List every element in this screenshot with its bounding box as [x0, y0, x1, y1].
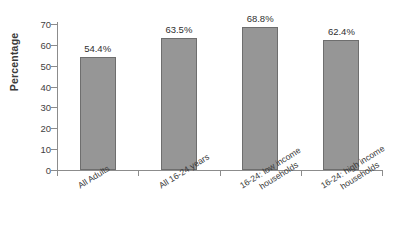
y-axis-tick-label: 0	[5, 166, 51, 176]
y-axis-tick: 10	[0, 149, 51, 150]
y-axis-tick-mark	[51, 66, 57, 67]
bar	[242, 27, 278, 170]
bar-value-label: 68.8%	[230, 14, 290, 24]
y-axis-tick-label: 40	[5, 83, 51, 93]
y-axis-tick: 60	[0, 45, 51, 46]
bar-value-label: 63.5%	[149, 25, 209, 35]
y-axis-tick: 50	[0, 66, 51, 67]
y-axis-tick-label: 50	[5, 62, 51, 72]
bar	[323, 40, 359, 170]
y-axis-tick-mark	[51, 149, 57, 150]
x-axis-tick-mark	[138, 170, 139, 176]
bar-value-label: 62.4%	[311, 27, 371, 37]
bar-value-label: 54.4%	[68, 44, 128, 54]
y-axis-tick-label: 30	[5, 103, 51, 113]
y-axis-tick-mark	[51, 24, 57, 25]
y-axis-tick: 70	[0, 24, 51, 25]
y-axis-tick-mark	[51, 107, 57, 108]
y-axis-tick: 0	[0, 170, 51, 171]
x-axis-tick-mark	[382, 170, 383, 176]
y-axis-tick-mark	[51, 87, 57, 88]
bar	[161, 38, 197, 170]
bar	[80, 57, 116, 170]
y-axis-tick-mark	[51, 128, 57, 129]
y-axis-tick-label: 60	[5, 41, 51, 51]
bar-chart: Percentage 706050403020100 54.4%63.5%68.…	[0, 0, 396, 237]
y-axis-tick: 40	[0, 87, 51, 88]
y-axis-tick-label: 20	[5, 124, 51, 134]
x-axis-tick-mark	[57, 170, 58, 176]
y-axis-tick: 30	[0, 107, 51, 108]
x-axis-tick-mark	[301, 170, 302, 176]
y-axis-line	[57, 22, 58, 171]
x-axis-tick-mark	[220, 170, 221, 176]
y-axis-tick: 20	[0, 128, 51, 129]
y-axis-tick-label: 10	[5, 145, 51, 155]
y-axis-tick-label: 70	[5, 20, 51, 30]
y-axis-tick-mark	[51, 45, 57, 46]
